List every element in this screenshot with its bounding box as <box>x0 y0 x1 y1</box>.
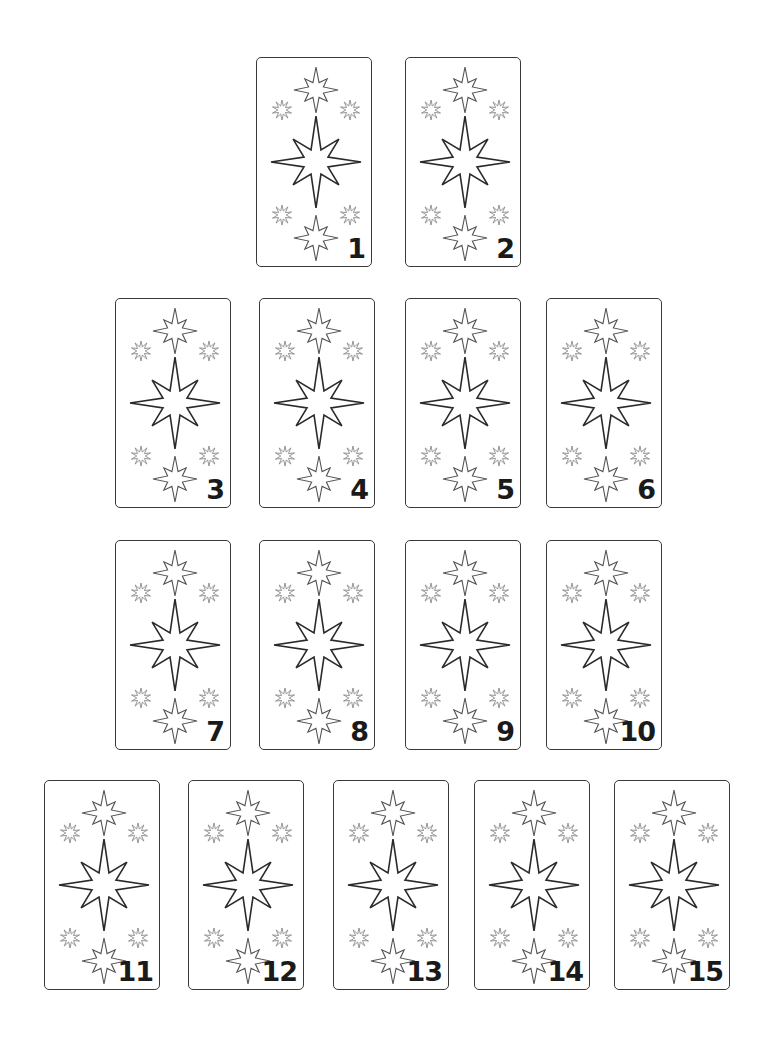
medium-star-top-icon <box>294 67 338 113</box>
small-star-top-left-icon <box>131 341 150 361</box>
small-star-top-right-icon <box>489 341 508 361</box>
medium-star-bottom-icon <box>153 698 197 744</box>
small-star-bottom-right-icon <box>489 688 508 708</box>
large-star-icon <box>629 839 719 931</box>
small-star-bottom-left-icon <box>204 928 223 948</box>
medium-star-bottom-icon <box>153 456 197 502</box>
small-star-bottom-left-icon <box>349 928 368 948</box>
small-star-top-right-icon <box>630 341 649 361</box>
medium-star-bottom-icon <box>297 456 341 502</box>
medium-star-bottom-icon <box>584 456 628 502</box>
small-star-bottom-right-icon <box>128 928 147 948</box>
large-star-icon <box>561 357 651 449</box>
card-number: 13 <box>406 957 442 987</box>
card-number: 6 <box>637 475 655 505</box>
card-number: 3 <box>206 475 224 505</box>
medium-star-top-icon <box>297 308 341 354</box>
small-star-bottom-left-icon <box>630 928 649 948</box>
small-star-top-right-icon <box>272 823 291 843</box>
small-star-bottom-right-icon <box>698 928 717 948</box>
medium-star-top-icon <box>584 308 628 354</box>
small-star-bottom-right-icon <box>417 928 436 948</box>
small-star-bottom-left-icon <box>490 928 509 948</box>
small-star-top-left-icon <box>349 823 368 843</box>
small-star-top-right-icon <box>199 341 218 361</box>
small-star-top-left-icon <box>60 823 79 843</box>
puzzle-card-12[interactable]: 12 <box>188 780 304 990</box>
large-star-icon <box>203 839 293 931</box>
large-star-icon <box>420 116 510 208</box>
medium-star-top-icon <box>652 790 696 836</box>
card-number: 14 <box>547 957 583 987</box>
medium-star-top-icon <box>153 550 197 596</box>
medium-star-top-icon <box>82 790 126 836</box>
small-star-top-left-icon <box>490 823 509 843</box>
medium-star-top-icon <box>153 308 197 354</box>
small-star-bottom-right-icon <box>489 446 508 466</box>
puzzle-card-9[interactable]: 9 <box>405 540 521 750</box>
small-star-top-right-icon <box>417 823 436 843</box>
medium-star-top-icon <box>226 790 270 836</box>
small-star-top-left-icon <box>630 823 649 843</box>
large-star-icon <box>348 839 438 931</box>
small-star-bottom-left-icon <box>421 688 440 708</box>
large-star-icon <box>420 357 510 449</box>
puzzle-card-3[interactable]: 3 <box>115 298 231 508</box>
puzzle-card-10[interactable]: 10 <box>546 540 662 750</box>
small-star-top-left-icon <box>562 341 581 361</box>
puzzle-card-1[interactable]: 1 <box>256 57 372 267</box>
puzzle-card-6[interactable]: 6 <box>546 298 662 508</box>
small-star-top-left-icon <box>562 583 581 603</box>
medium-star-top-icon <box>443 67 487 113</box>
card-number: 1 <box>347 234 365 264</box>
small-star-top-left-icon <box>421 583 440 603</box>
large-star-icon <box>130 357 220 449</box>
puzzle-card-5[interactable]: 5 <box>405 298 521 508</box>
large-star-icon <box>271 116 361 208</box>
medium-star-top-icon <box>584 550 628 596</box>
puzzle-card-2[interactable]: 2 <box>405 57 521 267</box>
puzzle-card-13[interactable]: 13 <box>333 780 449 990</box>
small-star-bottom-left-icon <box>275 688 294 708</box>
small-star-top-right-icon <box>199 583 218 603</box>
medium-star-top-icon <box>371 790 415 836</box>
card-number: 2 <box>496 234 514 264</box>
puzzle-card-8[interactable]: 8 <box>259 540 375 750</box>
medium-star-top-icon <box>443 308 487 354</box>
puzzle-card-7[interactable]: 7 <box>115 540 231 750</box>
card-number: 11 <box>117 957 153 987</box>
card-number: 15 <box>687 957 723 987</box>
puzzle-card-4[interactable]: 4 <box>259 298 375 508</box>
small-star-bottom-left-icon <box>60 928 79 948</box>
small-star-top-left-icon <box>272 100 291 120</box>
medium-star-bottom-icon <box>297 698 341 744</box>
small-star-bottom-left-icon <box>275 446 294 466</box>
medium-star-bottom-icon <box>294 215 338 261</box>
small-star-top-left-icon <box>421 341 440 361</box>
card-number: 4 <box>350 475 368 505</box>
small-star-bottom-left-icon <box>421 205 440 225</box>
small-star-top-left-icon <box>421 100 440 120</box>
small-star-bottom-left-icon <box>131 688 150 708</box>
card-number: 8 <box>350 717 368 747</box>
small-star-top-right-icon <box>558 823 577 843</box>
small-star-bottom-right-icon <box>558 928 577 948</box>
small-star-top-left-icon <box>275 341 294 361</box>
puzzle-card-11[interactable]: 11 <box>44 780 160 990</box>
small-star-bottom-right-icon <box>343 446 362 466</box>
small-star-top-right-icon <box>343 583 362 603</box>
small-star-top-right-icon <box>343 341 362 361</box>
small-star-bottom-right-icon <box>630 688 649 708</box>
small-star-bottom-right-icon <box>630 446 649 466</box>
puzzle-card-15[interactable]: 15 <box>614 780 730 990</box>
small-star-top-right-icon <box>489 583 508 603</box>
small-star-top-left-icon <box>131 583 150 603</box>
small-star-bottom-right-icon <box>199 446 218 466</box>
card-number: 12 <box>261 957 297 987</box>
small-star-bottom-left-icon <box>562 688 581 708</box>
small-star-bottom-right-icon <box>343 688 362 708</box>
small-star-bottom-right-icon <box>199 688 218 708</box>
small-star-bottom-right-icon <box>489 205 508 225</box>
small-star-top-right-icon <box>698 823 717 843</box>
puzzle-card-14[interactable]: 14 <box>474 780 590 990</box>
